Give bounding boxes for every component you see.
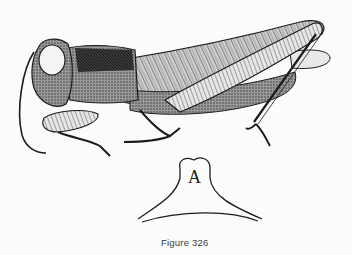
hind-tarsus [246,124,270,146]
pronotum-dark-band [75,48,134,72]
front-tibia [58,132,110,156]
hind-wing-tip [290,50,330,69]
detail-figure-base [142,213,258,222]
detail-label: A [188,167,201,187]
document-page: A Figure 326 [0,0,352,255]
grasshopper-illustration: A [0,0,352,255]
front-femur [43,111,98,132]
figure-caption: Figure 326 [161,237,208,248]
middle-leg [124,110,180,142]
compound-eye [39,45,65,75]
